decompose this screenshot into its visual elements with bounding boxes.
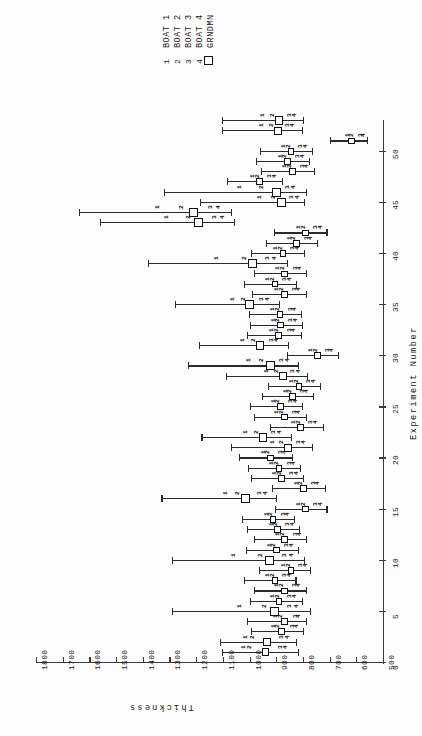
- confidence-interval-bar: [242, 519, 295, 520]
- legend-symbol-square: [204, 56, 213, 65]
- confidence-interval-bar: [222, 652, 298, 653]
- confidence-interval-bar: [100, 222, 234, 223]
- confidence-interval-bar: [260, 151, 313, 152]
- confidence-interval-cap: [295, 577, 296, 584]
- confidence-interval-cap: [199, 342, 200, 349]
- confidence-interval-bar: [188, 365, 297, 366]
- confidence-interval-cap: [298, 547, 299, 554]
- grand-mean-marker: [277, 311, 284, 318]
- confidence-interval-cap: [310, 608, 311, 615]
- grand-mean-marker: [296, 383, 303, 390]
- table-row: 1234: [0, 648, 422, 657]
- thickness-tick: [36, 657, 37, 663]
- confidence-interval-cap: [323, 424, 324, 431]
- grand-mean-marker: [241, 494, 250, 503]
- grand-mean-marker: [259, 433, 267, 441]
- table-row: 1234: [0, 269, 422, 278]
- confidence-interval-bar: [274, 232, 326, 233]
- legend-symbol-3: 3: [184, 59, 193, 64]
- grand-mean-marker: [256, 178, 263, 185]
- confidence-interval-bar: [256, 161, 309, 162]
- table-row: 1234: [0, 218, 422, 227]
- legend-names: BOAT 1BOAT 2BOAT 3BOAT 4GRNDMN: [150, 4, 280, 50]
- confidence-interval-cap: [226, 373, 227, 380]
- table-row: 1234: [0, 566, 422, 575]
- grand-mean-marker: [278, 475, 285, 482]
- grand-mean-marker: [278, 628, 285, 635]
- confidence-interval-cap: [222, 649, 223, 656]
- confidence-interval-bar: [231, 447, 312, 448]
- thickness-tick: [196, 657, 197, 663]
- table-row: 1234: [0, 413, 422, 422]
- grand-mean-marker: [281, 536, 288, 543]
- confidence-interval-cap: [326, 506, 327, 513]
- confidence-interval-cap: [312, 444, 313, 451]
- grand-mean-marker: [302, 230, 309, 237]
- confidence-interval-cap: [298, 362, 299, 369]
- table-row: 1234: [0, 494, 422, 503]
- grand-mean-marker: [284, 444, 292, 452]
- grand-mean-marker: [277, 322, 284, 329]
- confidence-interval-cap: [301, 332, 302, 339]
- table-row: 1234: [0, 136, 422, 145]
- table-row: 1234: [0, 556, 422, 565]
- thickness-tick: [89, 657, 90, 663]
- confidence-interval-cap: [314, 168, 315, 175]
- confidence-interval-cap: [274, 229, 275, 236]
- table-row: 1234: [0, 617, 422, 626]
- table-row: 1234: [0, 351, 422, 360]
- grand-mean-marker: [281, 291, 288, 298]
- confidence-interval-cap: [248, 465, 249, 472]
- grand-mean-marker: [272, 577, 279, 584]
- confidence-interval-cap: [256, 158, 257, 165]
- grand-mean-marker: [314, 352, 321, 359]
- thickness-tick-label: 900: [280, 655, 289, 670]
- confidence-interval-cap: [247, 526, 248, 533]
- grand-mean-marker: [288, 148, 295, 155]
- confidence-interval-bar: [172, 611, 309, 612]
- thickness-tick-label: 600: [360, 655, 369, 670]
- thickness-tick: [250, 657, 251, 663]
- confidence-interval-cap: [250, 598, 251, 605]
- legend-label-boat-2: BOAT 2: [173, 14, 183, 48]
- confidence-interval-bar: [249, 314, 301, 315]
- confidence-interval-bar: [200, 202, 304, 203]
- confidence-interval-cap: [299, 526, 300, 533]
- legend-symbol-2: 2: [173, 59, 182, 64]
- confidence-interval-cap: [266, 240, 267, 247]
- confidence-interval-bar: [175, 304, 279, 305]
- grand-mean-marker: [270, 607, 279, 616]
- confidence-interval-cap: [307, 373, 308, 380]
- confidence-interval-cap: [313, 393, 314, 400]
- confidence-interval-cap: [260, 148, 261, 155]
- thickness-axis-line: [36, 662, 385, 663]
- confidence-interval-cap: [254, 270, 255, 277]
- legend-label-boat-4: BOAT 4: [195, 14, 205, 48]
- grand-mean-marker: [245, 300, 254, 309]
- confidence-interval-cap: [276, 495, 277, 502]
- table-row: 1234: [0, 515, 422, 524]
- confidence-interval-bar: [251, 478, 303, 479]
- grand-mean-marker: [262, 648, 270, 656]
- confidence-interval-bar: [252, 294, 305, 295]
- confidence-interval-cap: [287, 352, 288, 359]
- grand-mean-marker: [289, 168, 296, 175]
- boat-4-marker: 4: [292, 113, 298, 117]
- table-row: 1234: [0, 382, 422, 391]
- grand-mean-marker: [300, 485, 307, 492]
- confidence-interval-cap: [244, 577, 245, 584]
- legend-symbols: 1234: [150, 50, 280, 72]
- table-row: 1234: [0, 392, 422, 401]
- confidence-interval-cap: [291, 434, 292, 441]
- confidence-interval-cap: [306, 536, 307, 543]
- table-row: 1234: [0, 167, 422, 176]
- grand-mean-marker: [275, 332, 282, 339]
- grand-mean-marker: [277, 198, 286, 207]
- confidence-interval-cap: [303, 117, 304, 124]
- confidence-interval-bar: [227, 181, 282, 182]
- plot-area: 5006007008009001000110012001300140015001…: [0, 88, 422, 688]
- experiment-axis-label: Experiment Number: [409, 326, 419, 440]
- confidence-interval-bar: [248, 468, 300, 469]
- grand-mean-marker: [288, 567, 295, 574]
- confidence-interval-bar: [254, 539, 307, 540]
